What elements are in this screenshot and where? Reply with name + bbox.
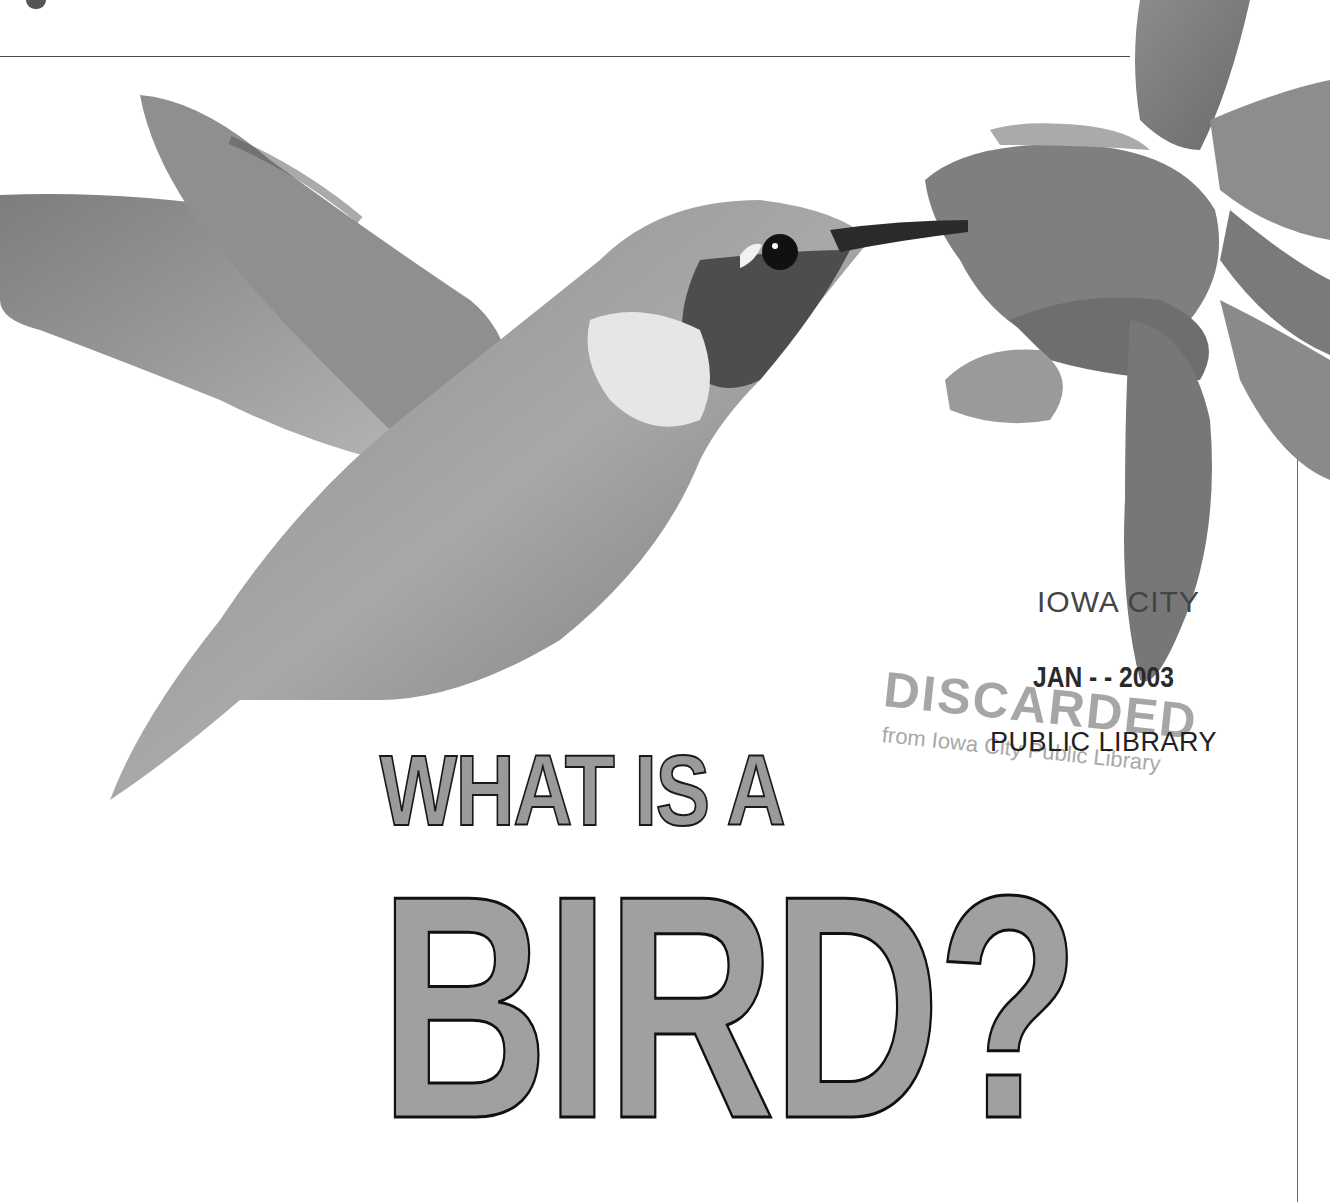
stamp-library-city: IOWA CITY [1037,585,1200,619]
stamp-library-name: PUBLIC LIBRARY [990,727,1217,758]
stamp-date: JAN - - 2003 [1033,660,1174,694]
title-line-1: WHAT IS A [295,740,869,840]
hummingbird-icon [0,95,968,800]
flower-icon [925,0,1330,681]
title-line-2: BIRD? [379,848,1001,1166]
